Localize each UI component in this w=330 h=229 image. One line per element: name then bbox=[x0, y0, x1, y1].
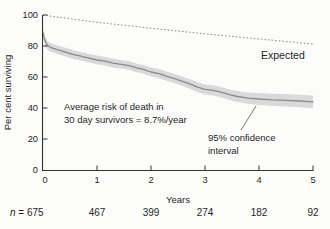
at-risk-count: 399 bbox=[143, 207, 160, 218]
confidence-interval-annotation-line1: 95% confidence bbox=[208, 132, 276, 143]
x-tick-label: 0 bbox=[42, 175, 47, 185]
x-tick-label: 2 bbox=[148, 175, 153, 185]
y-tick-label: 60 bbox=[28, 72, 38, 82]
observed-line bbox=[43, 33, 313, 102]
expected-line bbox=[43, 15, 313, 44]
average-risk-annotation-line2: 30 day survivors = 8.7%/year bbox=[64, 114, 187, 125]
y-axis-title: Per cent surviving bbox=[2, 55, 13, 131]
at-risk-count: 274 bbox=[197, 207, 214, 218]
at-risk-n-label: n = 675 bbox=[10, 207, 44, 218]
y-tick-label: 40 bbox=[28, 103, 38, 113]
at-risk-count: 92 bbox=[307, 207, 319, 218]
at-risk-count: = 675 bbox=[16, 207, 45, 218]
y-tick-label: 0 bbox=[33, 165, 38, 175]
average-risk-annotation-line1: Average risk of death in bbox=[64, 101, 164, 112]
at-risk-count: 182 bbox=[251, 207, 268, 218]
y-tick-label: 20 bbox=[28, 134, 38, 144]
confidence-interval-callout-line bbox=[241, 106, 256, 130]
survival-chart: 012345020406080100n = 67546739927418292 … bbox=[0, 0, 330, 229]
survival-figure: 012345020406080100n = 67546739927418292 … bbox=[0, 0, 330, 229]
x-axis-title: Years bbox=[166, 194, 190, 205]
at-risk-count: 467 bbox=[89, 207, 106, 218]
x-tick-label: 4 bbox=[256, 175, 261, 185]
x-tick-label: 3 bbox=[202, 175, 207, 185]
x-tick-label: 1 bbox=[94, 175, 99, 185]
confidence-interval-annotation-line2: interval bbox=[208, 145, 239, 156]
expected-series-label: Expected bbox=[261, 49, 305, 61]
y-tick-label: 80 bbox=[28, 41, 38, 51]
x-tick-label: 5 bbox=[310, 175, 315, 185]
y-tick-label: 100 bbox=[22, 10, 38, 20]
